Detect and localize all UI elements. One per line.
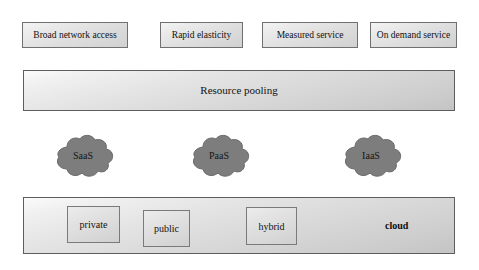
deployment-cloud-label: cloud xyxy=(385,220,408,231)
deployment-box-hybrid[interactable]: hybrid xyxy=(246,207,297,245)
characteristic-box-rapid-elasticity[interactable]: Rapid elasticity xyxy=(160,22,243,48)
deployment-box-public[interactable]: public xyxy=(143,210,190,247)
characteristic-box-on-demand-service[interactable]: On demand service xyxy=(370,22,457,48)
resource-pooling-bar[interactable]: Resource pooling xyxy=(23,70,455,111)
characteristic-label: Rapid elasticity xyxy=(172,30,231,40)
characteristic-label: On demand service xyxy=(377,30,450,40)
service-cloud-iaas[interactable]: IaaS xyxy=(335,133,407,181)
service-cloud-label: SaaS xyxy=(47,133,119,181)
deployment-box-private[interactable]: private xyxy=(67,206,120,243)
deployment-label: hybrid xyxy=(258,221,284,232)
service-cloud-saas[interactable]: SaaS xyxy=(47,133,119,181)
resource-pooling-label: Resource pooling xyxy=(200,84,277,96)
deployment-label: private xyxy=(80,219,108,230)
cloud-computing-diagram: Broad network access Rapid elasticity Me… xyxy=(0,0,479,270)
service-cloud-label: IaaS xyxy=(335,133,407,181)
deployment-label: public xyxy=(154,223,179,234)
characteristic-box-measured-service[interactable]: Measured service xyxy=(262,22,358,48)
service-cloud-label: PaaS xyxy=(183,133,255,181)
characteristic-box-broad-network-access[interactable]: Broad network access xyxy=(22,22,128,48)
characteristic-label: Measured service xyxy=(277,30,344,40)
service-cloud-paas[interactable]: PaaS xyxy=(183,133,255,181)
deployment-models-bar[interactable]: private public hybrid cloud xyxy=(23,197,455,254)
characteristic-label: Broad network access xyxy=(33,30,116,40)
